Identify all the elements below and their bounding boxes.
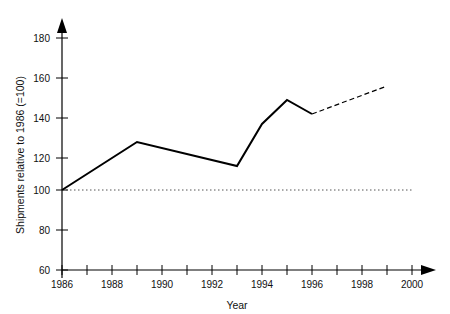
x-tick-label-1988: 1988 [101, 279, 124, 290]
x-tick-label-1990: 1990 [151, 279, 174, 290]
x-tick-label-1986: 1986 [51, 279, 74, 290]
y-axis-arrow-icon [57, 18, 67, 33]
y-tick-label-160: 160 [33, 73, 50, 84]
x-tick-label-1992: 1992 [201, 279, 224, 290]
data-series-group [62, 86, 387, 190]
x-tick-label-1998: 1998 [351, 279, 374, 290]
x-axis-arrow-icon [421, 265, 436, 275]
x-axis-title: Year [226, 299, 248, 311]
series-line-forecast [312, 86, 387, 114]
y-axis: 180 160 140 120 100 80 60 Shipments rela… [14, 18, 68, 278]
chart-container: 180 160 140 120 100 80 60 Shipments rela… [0, 0, 450, 314]
x-axis: 1986 1988 1990 1992 1994 1996 1998 2000 … [51, 265, 436, 311]
x-tick-label-2000: 2000 [401, 279, 424, 290]
y-axis-title: Shipments relative to 1986 (=100) [14, 76, 26, 234]
y-tick-label-80: 80 [39, 225, 51, 236]
series-line-actual [62, 100, 312, 190]
y-tick-label-100: 100 [33, 185, 50, 196]
x-tick-label-1996: 1996 [301, 279, 324, 290]
line-chart: 180 160 140 120 100 80 60 Shipments rela… [0, 0, 450, 314]
y-tick-label-120: 120 [33, 153, 50, 164]
y-tick-label-180: 180 [33, 33, 50, 44]
y-tick-label-60: 60 [39, 265, 51, 276]
x-tick-label-1994: 1994 [251, 279, 274, 290]
y-tick-label-140: 140 [33, 113, 50, 124]
